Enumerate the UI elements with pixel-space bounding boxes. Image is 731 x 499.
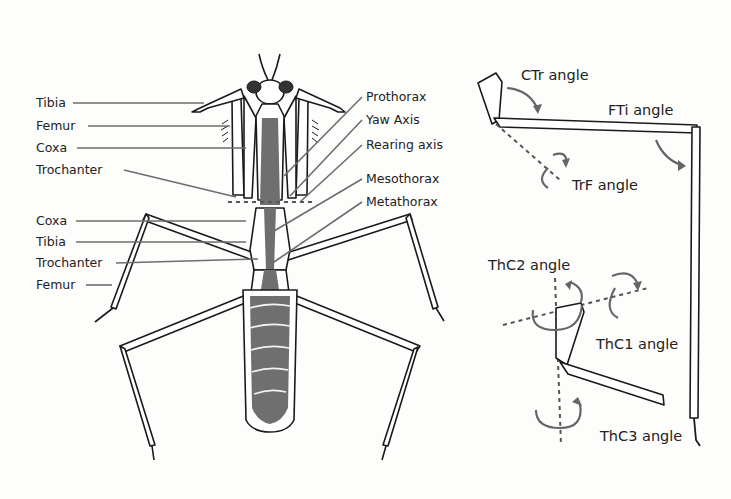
label-hindleg-coxa: Coxa — [36, 213, 67, 228]
label-mesothorax: Mesothorax — [366, 171, 439, 186]
tibia-segment — [690, 127, 700, 418]
label-hindleg-tibia: Tibia — [35, 234, 66, 249]
label-fti-angle: FTi angle — [608, 102, 673, 118]
label-ctr-angle: CTr angle — [521, 67, 589, 83]
label-hindleg-femur: Femur — [36, 277, 76, 292]
background-bleed-text — [0, 0, 731, 499]
label-foreleg-tibia: Tibia — [35, 95, 66, 110]
label-yaw-axis: Yaw Axis — [365, 112, 420, 127]
label-thc2-angle: ThC2 angle — [487, 257, 570, 273]
label-trf-angle: TrF angle — [571, 177, 638, 193]
label-metathorax: Metathorax — [366, 194, 438, 209]
abdomen — [243, 290, 297, 432]
label-prothorax: Prothorax — [366, 89, 427, 104]
label-foreleg-trochanter: Trochanter — [35, 162, 103, 177]
label-foreleg-femur: Femur — [36, 118, 76, 133]
label-thc1-angle: ThC1 angle — [595, 336, 678, 352]
label-rearing-axis: Rearing axis — [366, 137, 443, 152]
label-hindleg-trochanter: Trochanter — [35, 255, 103, 270]
mantis-anatomy-diagram: Tibia Femur Coxa Trochanter Coxa Tibia T… — [0, 0, 731, 499]
label-thc3-angle: ThC3 angle — [599, 428, 682, 444]
label-foreleg-coxa: Coxa — [36, 140, 67, 155]
